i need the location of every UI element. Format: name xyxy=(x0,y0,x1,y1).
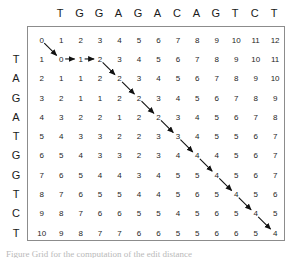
matrix-cell: 3 xyxy=(129,74,148,84)
matrix-cell: 5 xyxy=(168,229,187,239)
matrix-cell: 2 xyxy=(129,151,148,161)
figure-container: TGGAGACAGTCT TAGATGGTCT 0123456789101112… xyxy=(0,0,294,258)
matrix-cell: 6 xyxy=(149,229,168,239)
matrix-cell: 7 xyxy=(71,209,90,219)
matrix-cell: 1 xyxy=(52,36,71,46)
matrix-cell: 8 xyxy=(71,229,90,239)
matrix-cell: 3 xyxy=(32,94,51,104)
matrix-cell: 2 xyxy=(149,113,168,123)
matrix-cell: 6 xyxy=(188,190,207,200)
matrix-cell: 5 xyxy=(188,171,207,181)
matrix-cell: 3 xyxy=(149,94,168,104)
column-header-10: C xyxy=(245,6,264,20)
row-header-2: G xyxy=(9,91,23,105)
matrix-cell: 5 xyxy=(227,209,246,219)
matrix-cell: 10 xyxy=(227,36,246,46)
matrix-cell: 6 xyxy=(52,171,71,181)
matrix-cell: 6 xyxy=(246,132,265,142)
figure-caption: Figure Grid for the computation of the e… xyxy=(6,249,286,258)
matrix-cell: 2 xyxy=(129,94,148,104)
column-header-9: T xyxy=(226,6,245,20)
row-header-6: G xyxy=(9,168,23,182)
column-header-1: G xyxy=(70,6,89,20)
matrix-cell: 4 xyxy=(129,55,148,65)
matrix-cell: 4 xyxy=(149,190,168,200)
matrix-cell: 6 xyxy=(207,94,226,104)
row-header-3: A xyxy=(9,110,23,124)
matrix-cell: 7 xyxy=(266,151,285,161)
matrix-cell: 6 xyxy=(246,151,265,161)
matrix-cell: 6 xyxy=(227,113,246,123)
matrix-cell: 9 xyxy=(207,36,226,46)
matrix-cell: 8 xyxy=(207,55,226,65)
matrix-cell: 6 xyxy=(246,171,265,181)
matrix-cell: 3 xyxy=(110,151,129,161)
row-header-7: T xyxy=(9,187,23,201)
matrix-cell: 0 xyxy=(52,55,71,65)
matrix-cell: 5 xyxy=(246,190,265,200)
matrix-cell: 6 xyxy=(71,190,90,200)
matrix-cell: 11 xyxy=(246,36,265,46)
matrix-cell: 1 xyxy=(91,94,110,104)
matrix-cell: 4 xyxy=(266,229,285,239)
matrix-cell: 6 xyxy=(207,229,226,239)
matrix-cell: 1 xyxy=(71,74,90,84)
matrix-cell: 4 xyxy=(227,190,246,200)
matrix-cell: 5 xyxy=(207,113,226,123)
matrix-cell: 7 xyxy=(91,229,110,239)
row-header-8: C xyxy=(9,206,23,220)
matrix-cell: 5 xyxy=(227,151,246,161)
matrix-cell: 5 xyxy=(71,171,90,181)
matrix-cell: 2 xyxy=(110,94,129,104)
column-header-0: T xyxy=(51,6,70,20)
column-header-3: A xyxy=(109,6,128,20)
matrix-cell: 7 xyxy=(266,171,285,181)
matrix-cell: 1 xyxy=(32,55,51,65)
matrix-cell: 4 xyxy=(52,132,71,142)
matrix-cell: 3 xyxy=(149,132,168,142)
column-header-7: A xyxy=(187,6,206,20)
matrix-cell: 5 xyxy=(227,171,246,181)
matrix-cell: 2 xyxy=(91,55,110,65)
matrix-cell: 2 xyxy=(110,74,129,84)
matrix-cell: 4 xyxy=(129,190,148,200)
row-header-4: T xyxy=(9,129,23,143)
matrix-cell: 2 xyxy=(91,74,110,84)
matrix-cell: 6 xyxy=(110,209,129,219)
matrix-cell: 4 xyxy=(188,151,207,161)
column-header-6: C xyxy=(167,6,186,20)
matrix-cell: 6 xyxy=(168,55,187,65)
matrix-cell: 4 xyxy=(188,132,207,142)
row-header-9: T xyxy=(9,226,23,240)
matrix-cell: 6 xyxy=(188,74,207,84)
matrix-cell: 3 xyxy=(91,151,110,161)
matrix-cell: 12 xyxy=(266,36,285,46)
matrix-cell: 5 xyxy=(188,94,207,104)
matrix-cell: 8 xyxy=(246,94,265,104)
matrix-cell: 4 xyxy=(168,94,187,104)
matrix-cell: 2 xyxy=(91,113,110,123)
matrix-cell: 7 xyxy=(266,132,285,142)
matrix-cell: 3 xyxy=(168,132,187,142)
matrix-cell: 3 xyxy=(52,113,71,123)
matrix-cell: 2 xyxy=(52,94,71,104)
matrix-cell: 4 xyxy=(207,151,226,161)
matrix-cell: 8 xyxy=(266,113,285,123)
matrix-cell: 5 xyxy=(149,209,168,219)
matrix-cell: 5 xyxy=(110,190,129,200)
row-header-5: G xyxy=(9,148,23,162)
matrix-cell: 5 xyxy=(168,74,187,84)
matrix-cell: 2 xyxy=(129,132,148,142)
matrix-cell: 4 xyxy=(149,171,168,181)
matrix-cell: 5 xyxy=(168,190,187,200)
matrix-cell: 9 xyxy=(32,209,51,219)
matrix-cell: 5 xyxy=(188,209,207,219)
matrix-cell: 6 xyxy=(266,190,285,200)
matrix-cell: 11 xyxy=(266,55,285,65)
matrix-cell: 4 xyxy=(91,171,110,181)
matrix-cell: 0 xyxy=(32,36,51,46)
matrix-cell: 10 xyxy=(266,74,285,84)
matrix-cell: 5 xyxy=(91,190,110,200)
matrix-cell: 9 xyxy=(227,55,246,65)
column-header-2: G xyxy=(90,6,109,20)
